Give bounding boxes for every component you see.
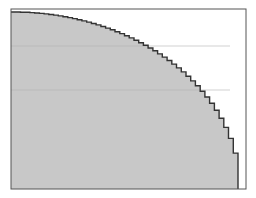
area-chart (0, 0, 256, 198)
